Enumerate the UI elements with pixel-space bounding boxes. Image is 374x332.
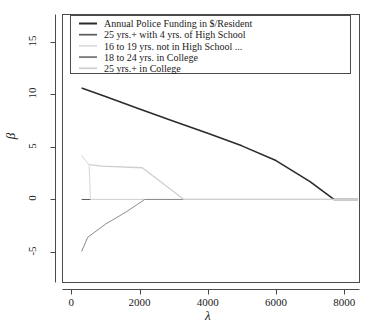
- x-axis-ticks: [72, 290, 345, 295]
- y-tick-label: -5: [26, 236, 38, 266]
- data-series-layer: [82, 88, 358, 251]
- x-tick-label: 8000: [319, 296, 369, 308]
- y-tick-label: 10: [26, 78, 38, 108]
- x-tick-label: 6000: [251, 296, 301, 308]
- x-tick-label: 4000: [183, 296, 233, 308]
- y-axis-title: β: [3, 133, 19, 139]
- x-tick-label: 2000: [115, 296, 165, 308]
- y-tick-label: 5: [26, 131, 38, 161]
- legend-label: 25 yrs.+ in College: [104, 63, 181, 74]
- chart-figure: Annual Police Funding in $/Resident25 yr…: [0, 0, 374, 332]
- series-line: [82, 155, 358, 199]
- series-line: [82, 199, 358, 251]
- coefficient-path-chart: Annual Police Funding in $/Resident25 yr…: [0, 0, 374, 332]
- series-line: [89, 165, 358, 200]
- y-tick-label: 15: [26, 26, 38, 56]
- x-axis-title: λ: [205, 308, 211, 324]
- x-tick-label: 0: [46, 296, 96, 308]
- legend-label: Annual Police Funding in $/Resident: [104, 18, 253, 29]
- legend-label: 18 to 24 yrs. in College: [104, 52, 198, 63]
- y-axis-ticks: [51, 43, 56, 253]
- legend-label: 16 to 19 yrs. not in High School ...: [104, 41, 242, 52]
- legend-label: 25 yrs.+ with 4 yrs. of High School: [104, 29, 246, 40]
- y-tick-label: 0: [26, 183, 38, 213]
- series-line: [82, 88, 358, 199]
- chart-legend: Annual Police Funding in $/Resident25 yr…: [71, 16, 351, 74]
